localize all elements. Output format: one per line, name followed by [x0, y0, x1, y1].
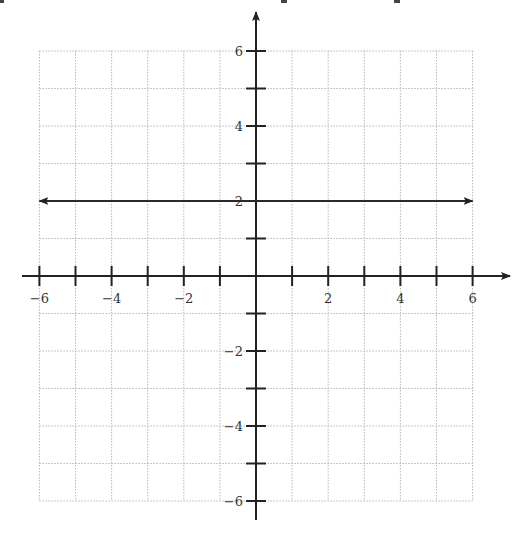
x-tick-label: −2	[174, 291, 193, 306]
x-tick-label: 6	[468, 291, 476, 306]
y-tick-label: 4	[235, 119, 243, 134]
x-tick-label: 4	[396, 291, 404, 306]
y-tick-label: −4	[224, 419, 243, 434]
x-tick-label: −4	[102, 291, 121, 306]
y-tick-label: −2	[224, 344, 243, 359]
x-tick-label: −6	[30, 291, 49, 306]
x-tick-label: 2	[324, 291, 332, 306]
y-tick-label: 6	[235, 44, 243, 59]
coordinate-plane: −6−4−2246642−2−4−6	[0, 0, 524, 534]
y-tick-label: −6	[224, 494, 243, 509]
